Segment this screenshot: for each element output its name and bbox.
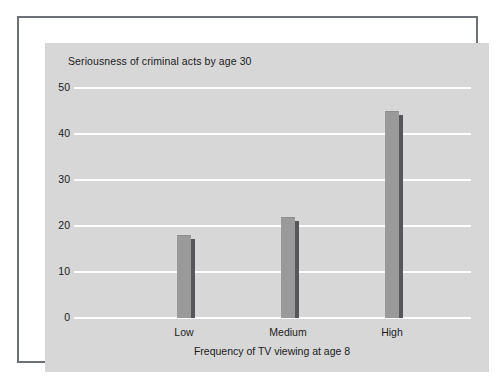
chart-screenshot: Seriousness of criminal acts by age 30 0… [0,0,496,380]
x-axis-tick-high: High [381,326,403,338]
y-axis-tick-label: 10 [45,265,70,277]
bar-face [281,217,295,318]
y-axis-tick-label: 0 [45,311,70,323]
y-axis-tick-label: 40 [45,127,70,139]
gridline [74,133,471,135]
bar-high [385,111,403,318]
x-axis-tick-medium: Medium [269,326,306,338]
chart-frame: Seriousness of criminal acts by age 30 0… [17,16,478,363]
gridline [74,87,471,89]
bar-medium [281,217,299,318]
gridline [74,225,471,227]
y-axis-tick-text: 10 [46,265,70,277]
y-axis-tick-text: 40 [46,127,70,139]
y-axis-tick-text: 30 [46,173,70,185]
y-axis-tick-text: 0 [46,311,70,323]
gridline [74,271,471,273]
y-axis-tick-text: 50 [46,81,70,93]
y-axis-tick-text: 20 [46,219,70,231]
bar-low [177,235,195,318]
x-axis-title: Frequency of TV viewing at age 8 [194,345,350,357]
y-axis-tick-label: 50 [45,81,70,93]
bar-side-shadow [295,221,299,318]
bar-face [177,235,191,318]
bar-face [385,111,399,318]
gridline [74,317,471,319]
bar-side-shadow [191,239,195,318]
chart-plot-panel: Seriousness of criminal acts by age 30 0… [45,43,489,372]
y-axis-tick-label: 30 [45,173,70,185]
gridline [74,179,471,181]
x-axis-tick-low: Low [174,326,193,338]
y-axis-tick-label: 20 [45,219,70,231]
chart-title: Seriousness of criminal acts by age 30 [68,55,252,67]
bar-side-shadow [399,115,403,318]
